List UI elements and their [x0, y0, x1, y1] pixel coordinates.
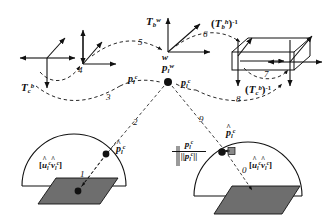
fraction-denominator: ||plc|| [172, 152, 206, 162]
label-point-hat-camera-left: ^plc [116, 144, 125, 155]
fraction-numerator: plc [172, 140, 206, 150]
step-number-8: 8 [236, 95, 241, 104]
step-number-3: 3 [106, 93, 111, 102]
figure-canvas: Tbw (Tbh)-1 Tcb (Tcb)-1 w plw plc plc ^p… [0, 0, 332, 218]
diagram-vector-layer [0, 0, 332, 218]
label-transform-body-inverse: (Tbh)-1 [211, 18, 238, 31]
step-number-7: 7 [264, 70, 269, 79]
label-image-coords-left: [^ulc^vlc] [39, 161, 62, 171]
step-number-0: 0 [242, 166, 247, 175]
label-point-hat-camera-right: ^plc [226, 128, 235, 139]
label-normalized-direction: plc ||plc|| [172, 140, 206, 163]
world-point-marker [164, 78, 172, 86]
frame-camera-left [20, 38, 75, 88]
step-number-6: 6 [203, 30, 208, 39]
label-point-camera-right: plc [181, 78, 190, 89]
label-point-camera-left: plc [128, 74, 137, 85]
label-point-world: plw [162, 62, 174, 75]
left-sphere-model [22, 134, 126, 204]
label-image-coords-right: [^ulc^vlc] [249, 161, 272, 171]
label-transform-camera-to-body: Tcb [21, 82, 34, 95]
frame-body-left [83, 30, 116, 64]
step-number-2: 2 [133, 118, 138, 127]
step-number-5: 5 [138, 38, 143, 47]
step-number-4: 4 [78, 66, 83, 75]
step-number-1: 1 [80, 170, 85, 179]
label-transform-body-to-world: Tbw [146, 16, 161, 29]
step-number-9: 9 [199, 115, 204, 124]
frame-box-right [232, 36, 322, 86]
label-transform-camera-inverse: (Tcb)-1 [245, 84, 271, 97]
